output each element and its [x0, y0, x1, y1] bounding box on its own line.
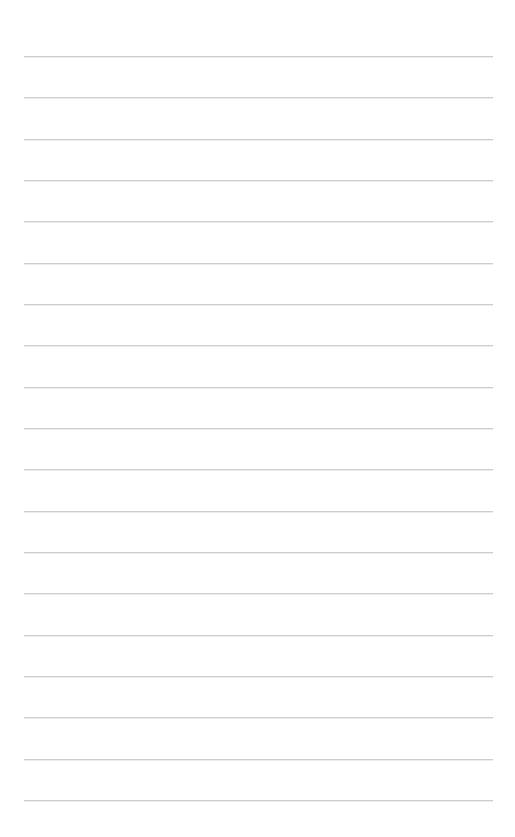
lined-paper-page — [0, 0, 515, 837]
writing-surface[interactable] — [0, 0, 515, 837]
